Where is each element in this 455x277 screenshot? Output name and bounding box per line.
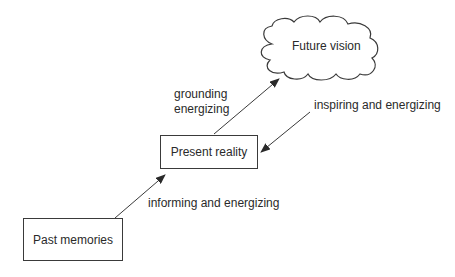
arrow-future-to-present <box>261 112 310 152</box>
edge-label-energizing: energizing <box>174 101 229 117</box>
node-past-memories-label: Past memories <box>33 233 113 247</box>
edge-label-informing: informing and energizing <box>148 195 279 211</box>
node-past-memories: Past memories <box>23 218 123 261</box>
node-present-reality: Present reality <box>160 135 258 169</box>
edge-label-grounding: grounding <box>174 86 227 102</box>
node-future-vision-label: Future vision <box>292 39 361 53</box>
node-present-reality-label: Present reality <box>171 145 248 159</box>
edge-label-inspiring: inspiring and energizing <box>314 97 441 113</box>
